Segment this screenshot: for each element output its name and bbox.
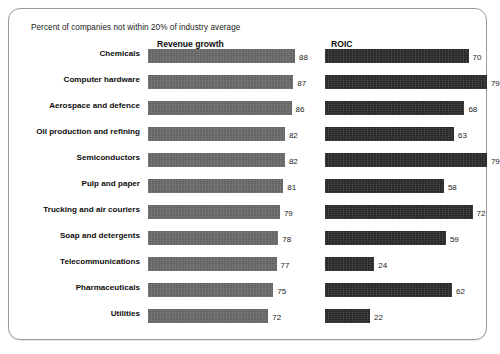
bar-roic (325, 153, 487, 167)
bar-roic (325, 309, 370, 323)
bar-revenue (148, 205, 280, 219)
bar-value-roic: 62 (456, 286, 465, 297)
bar-value-revenue: 82 (289, 130, 298, 141)
bar-revenue (148, 153, 285, 167)
bar-group-roic: 22 (325, 309, 383, 323)
bar-group-roic: 72 (325, 205, 486, 219)
bar-revenue (148, 309, 268, 323)
bar-value-roic: 63 (458, 130, 467, 141)
category-label: Trucking and air couriers (0, 205, 140, 214)
bar-value-revenue: 75 (277, 286, 286, 297)
bar-value-revenue: 87 (297, 78, 306, 89)
bar-group-revenue: 82 (148, 153, 298, 167)
chart-row: Semiconductors8279 (0, 150, 499, 176)
bar-revenue (148, 127, 285, 141)
bar-group-revenue: 81 (148, 179, 296, 193)
bar-value-roic: 72 (477, 208, 486, 219)
bar-group-revenue: 78 (148, 231, 291, 245)
bar-group-revenue: 86 (148, 101, 305, 115)
bar-roic (325, 49, 469, 63)
chart-row: Computer hardware8779 (0, 72, 499, 98)
bar-value-revenue: 86 (296, 104, 305, 115)
bar-roic (325, 283, 452, 297)
bar-roic (325, 75, 487, 89)
bar-revenue (148, 231, 278, 245)
bar-roic (325, 179, 444, 193)
bar-group-roic: 79 (325, 75, 500, 89)
bar-group-roic: 59 (325, 231, 459, 245)
bar-group-revenue: 77 (148, 257, 290, 271)
bar-value-roic: 70 (473, 52, 482, 63)
bar-group-roic: 68 (325, 101, 477, 115)
category-label: Soap and detergents (0, 231, 140, 240)
bar-value-revenue: 82 (289, 156, 298, 167)
bar-group-revenue: 72 (148, 309, 281, 323)
chart-row: Pulp and paper8158 (0, 176, 499, 202)
bar-value-revenue: 77 (281, 260, 290, 271)
bar-revenue (148, 179, 283, 193)
bar-value-revenue: 79 (284, 208, 293, 219)
bar-value-roic: 79 (491, 78, 500, 89)
bar-group-roic: 58 (325, 179, 457, 193)
bar-roic (325, 231, 446, 245)
category-label: Oil production and refining (0, 127, 140, 136)
chart-row: Trucking and air couriers7972 (0, 202, 499, 228)
bar-value-roic: 22 (374, 312, 383, 323)
bar-revenue (148, 257, 277, 271)
bar-revenue (148, 101, 292, 115)
bar-revenue (148, 49, 295, 63)
bar-group-roic: 79 (325, 153, 500, 167)
bar-group-roic: 62 (325, 283, 465, 297)
chart-row: Chemicals8870 (0, 46, 499, 72)
bar-value-roic: 58 (448, 182, 457, 193)
category-label: Pulp and paper (0, 179, 140, 188)
chart-row: Telecommunications7724 (0, 254, 499, 280)
bar-group-roic: 63 (325, 127, 467, 141)
chart-row: Soap and detergents7859 (0, 228, 499, 254)
chart-subtitle: Percent of companies not within 20% of i… (31, 23, 240, 32)
category-label: Aerospace and defence (0, 101, 140, 110)
chart-row: Aerospace and defence8668 (0, 98, 499, 124)
bar-revenue (148, 283, 273, 297)
chart-rows: Chemicals8870Computer hardware8779Aerosp… (0, 46, 499, 332)
bar-value-roic: 24 (378, 260, 387, 271)
bar-roic (325, 127, 454, 141)
category-label: Computer hardware (0, 75, 140, 84)
bar-value-revenue: 78 (282, 234, 291, 245)
bar-group-revenue: 88 (148, 49, 308, 63)
category-label: Utilities (0, 309, 140, 318)
bar-group-revenue: 87 (148, 75, 306, 89)
bar-value-roic: 59 (450, 234, 459, 245)
bar-value-revenue: 88 (299, 52, 308, 63)
bar-roic (325, 257, 374, 271)
chart-row: Pharmaceuticals7562 (0, 280, 499, 306)
bar-group-revenue: 79 (148, 205, 293, 219)
bar-group-roic: 70 (325, 49, 481, 63)
bar-group-roic: 24 (325, 257, 387, 271)
bar-value-roic: 79 (491, 156, 500, 167)
bar-value-revenue: 81 (287, 182, 296, 193)
chart-row: Oil production and refining8263 (0, 124, 499, 150)
bar-roic (325, 205, 473, 219)
category-label: Telecommunications (0, 257, 140, 266)
bar-value-roic: 68 (468, 104, 477, 115)
category-label: Semiconductors (0, 153, 140, 162)
category-label: Pharmaceuticals (0, 283, 140, 292)
bar-revenue (148, 75, 293, 89)
bar-group-revenue: 82 (148, 127, 298, 141)
category-label: Chemicals (0, 49, 140, 58)
bar-group-revenue: 75 (148, 283, 286, 297)
bar-roic (325, 101, 464, 115)
bar-value-revenue: 72 (272, 312, 281, 323)
chart-row: Utilities7222 (0, 306, 499, 332)
